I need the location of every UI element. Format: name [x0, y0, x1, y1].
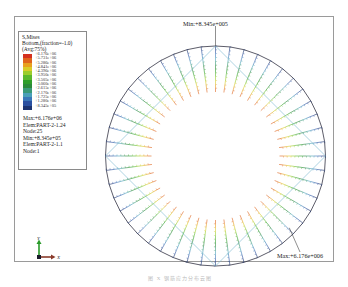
svg-text:X: X: [56, 255, 61, 260]
x-axis-arrow-icon: [39, 255, 56, 260]
min-annotation: Min:+8.345e+005: [183, 20, 228, 27]
svg-text:Y: Y: [37, 236, 41, 241]
coordinate-triad: Y X: [34, 236, 64, 260]
y-axis-arrow-icon: [37, 240, 42, 258]
max-annotation: Max:+6.176e+006: [277, 252, 323, 259]
figure-caption: 图 X 钢筋应力分布云图: [95, 274, 265, 280]
